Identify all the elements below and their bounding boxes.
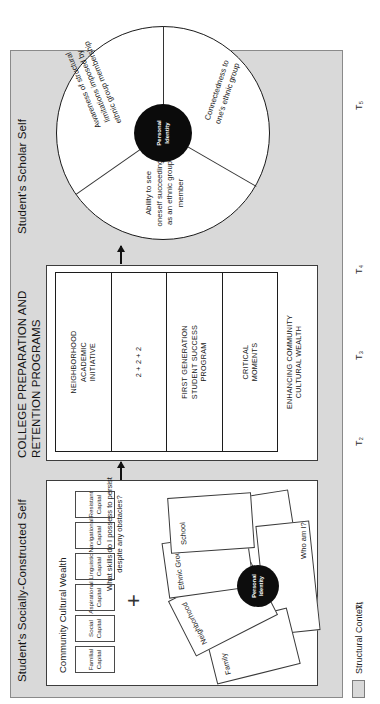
personal-identity-core-right: Personal Identity	[134, 104, 192, 162]
timeline-mark-t4: T₄	[354, 265, 364, 274]
question-who-am-i: Who am I?	[299, 522, 309, 559]
timeline-mark-t3: T₃	[354, 351, 364, 360]
capital-label: Resistant Capital	[87, 492, 103, 518]
program-item-first-generation-student-success: FIRST GENERATION STUDENT SUCCESS PROGRAM	[166, 272, 223, 452]
capital-box: Familial Capital	[75, 646, 115, 673]
program-item-critical-moments: CRITICAL MOMENTS	[222, 272, 279, 452]
plus-icon: +	[123, 594, 145, 607]
program-label: NEIGHBORHOOD ACADEMIC INITIATIVE	[69, 331, 97, 394]
wheel-slice-ability-to-see-oneself-succeeding: Ability to see oneself succeeding as an …	[144, 156, 186, 230]
personal-identity-label: Personal Identity	[155, 120, 171, 145]
identity-card-label: School	[178, 522, 189, 545]
question-skills: What skills do I possess to persist desp…	[105, 475, 126, 593]
capital-box: Social Capital	[75, 615, 115, 642]
timeline-mark-t2: T₂	[354, 437, 364, 446]
panel-title-scholar-self: Student's Scholar Self	[16, 119, 30, 234]
program-label: 2 + 2 + 2	[134, 347, 143, 378]
panel-title-socially-constructed-self: Student's Socially-Constructed Self	[16, 499, 30, 682]
identity-card-cluster: Family Neighborhood Ethnic Group School …	[151, 479, 311, 679]
program-item-2-2-2: 2 + 2 + 2	[111, 272, 168, 452]
legend-label-structural-context: Structural Context	[354, 602, 364, 674]
program-label: CRITICAL MOMENTS	[241, 343, 260, 381]
legend: Structural Context	[352, 602, 365, 698]
arrow-right-icon	[120, 246, 122, 264]
panel-scholar-self: Ability to see oneself succeeding as an …	[46, 16, 318, 246]
timeline-mark-t5: T₅	[354, 101, 364, 110]
capital-label: Aspirational Capital	[87, 581, 103, 613]
panel-college-preparation-programs: NEIGHBORHOOD ACADEMIC INITIATIVE 2 + 2 +…	[46, 265, 318, 461]
personal-identity-label: Personal Identity	[251, 574, 266, 598]
panel-title-college-preparation-programs: COLLEGE PREPARATION AND RETENTION PROGRA…	[16, 291, 43, 458]
capital-label: Familial Capital	[87, 649, 103, 670]
capital-label: Navigational Capital	[87, 518, 103, 552]
arrow-right-icon	[120, 462, 122, 480]
capital-label: Social Capital	[87, 619, 103, 638]
program-label: FIRST GENERATION STUDENT SUCCESS PROGRAM	[180, 325, 208, 399]
identity-card-label: Neighborhood	[180, 601, 209, 646]
program-item-neighborhood-academic-initiative: NEIGHBORHOOD ACADEMIC INITIATIVE	[55, 272, 112, 452]
personal-identity-core-left: Personal Identity	[237, 565, 279, 607]
diagram-stage: Student's Socially-Constructed Self COLL…	[0, 0, 380, 704]
identity-card-label: Family	[219, 652, 233, 675]
enhancing-community-cultural-wealth-label: ENHANCING COMMUNITY CULTURAL WEALTH	[285, 272, 304, 452]
identity-card-school: School	[167, 492, 255, 554]
panel-socially-constructed-self: Community Cultural Wealth Familial Capit…	[46, 480, 318, 686]
timeline: T₁ T₂ T₃ T₄ T₅	[352, 50, 374, 698]
program-list: NEIGHBORHOOD ACADEMIC INITIATIVE 2 + 2 +…	[55, 272, 277, 452]
scholar-self-wheel: Ability to see oneself succeeding as an …	[52, 18, 280, 246]
legend-swatch-structural-context	[352, 680, 365, 698]
capital-label: Linguistic Capital	[87, 554, 103, 580]
community-cultural-wealth-label: Community Cultural Wealth	[57, 558, 68, 673]
